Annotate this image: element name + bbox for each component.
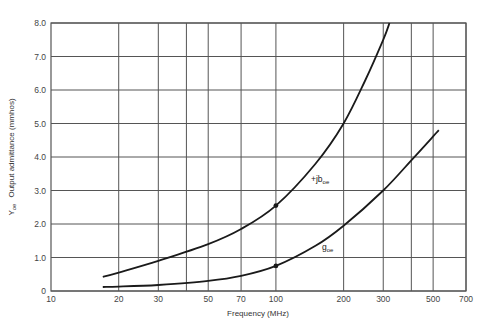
- data-curves: [103, 23, 439, 287]
- grid-lines: [51, 23, 466, 291]
- x-tick-label: 100: [269, 294, 283, 304]
- x-tick-label: 200: [337, 294, 351, 304]
- y-tick-label: 1.0: [34, 253, 46, 263]
- y-tick-label: 5.0: [34, 119, 46, 129]
- x-tick-label: 500: [426, 294, 440, 304]
- admittance-chart: 01.02.03.04.05.06.07.08.0 10203050701002…: [0, 0, 490, 334]
- x-tick-label: 300: [376, 294, 390, 304]
- x-tick-label: 30: [154, 294, 164, 304]
- y-tick-label: 7.0: [34, 52, 46, 62]
- y-tick-label: 8.0: [34, 18, 46, 28]
- x-tick-label: 700: [459, 294, 473, 304]
- data-point-marker: [274, 203, 279, 208]
- x-tick-label: 70: [236, 294, 246, 304]
- y-tick-label: 3.0: [34, 186, 46, 196]
- y-tick-label: 4.0: [34, 152, 46, 162]
- y-tick-label: 6.0: [34, 85, 46, 95]
- svg-text:YoeOutput admittance (mmhos): YoeOutput admittance (mmhos): [7, 98, 17, 216]
- curve-goe: [103, 130, 439, 287]
- y-tick-label: 2.0: [34, 219, 46, 229]
- x-axis-ticks: 1020305070100200300500700: [46, 294, 473, 304]
- x-axis-title: Frequency (MHz): [227, 309, 289, 318]
- x-tick-label: 20: [114, 294, 124, 304]
- y-axis-title: YoeOutput admittance (mmhos): [7, 98, 17, 216]
- x-tick-label: 50: [203, 294, 213, 304]
- curve-jboe: [103, 23, 390, 277]
- x-tick-label: 10: [46, 294, 56, 304]
- data-point-marker: [274, 263, 279, 268]
- curve-label-jboe: +jboe: [311, 174, 330, 185]
- curve-label-goe: goe: [322, 242, 334, 253]
- y-axis-ticks: 01.02.03.04.05.06.07.08.0: [34, 18, 46, 296]
